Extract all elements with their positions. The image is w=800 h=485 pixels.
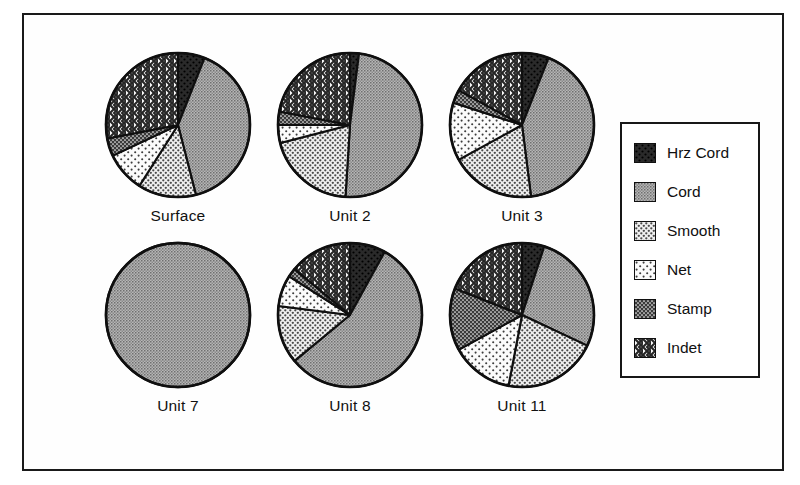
pie-slice: Indet 22% xyxy=(279,53,350,125)
swatch-cord xyxy=(634,182,656,202)
legend-item: Cord xyxy=(634,172,758,211)
legend-item: Stamp xyxy=(634,289,758,328)
pie-graphic: Hrz Cord 8%Cord 56%Smooth 13%Net 7%Stamp… xyxy=(274,239,426,391)
swatch-hrz-cord xyxy=(634,143,656,163)
pie-chart-unit-11: Hrz Cord 5%Cord 27%Smooth 21%Net 14%Stam… xyxy=(442,239,602,415)
legend-item: Net xyxy=(634,250,758,289)
legend-item-label: Cord xyxy=(667,183,701,201)
legend-item-label: Hrz Cord xyxy=(667,144,729,162)
swatch-net xyxy=(634,260,656,280)
legend-item: Indet xyxy=(634,328,758,367)
pie-slice: Indet 28% xyxy=(106,53,178,138)
swatch-indet xyxy=(634,338,656,358)
pie-caption: Unit 11 xyxy=(442,397,602,415)
legend-item-label: Stamp xyxy=(667,300,712,318)
pie-graphic: Hrz Cord 2%Cord 49%Smooth 20%Net 4%Stamp… xyxy=(274,49,426,201)
pie-graphic: Hrz Cord 5%Cord 27%Smooth 21%Net 14%Stam… xyxy=(446,239,598,391)
legend-item-label: Smooth xyxy=(667,222,720,240)
pie-graphic: Hrz Cord 6%Cord 40%Smooth 13%Net 9%Stamp… xyxy=(102,49,254,201)
pie-chart-unit-2: Hrz Cord 2%Cord 49%Smooth 20%Net 4%Stamp… xyxy=(270,49,430,225)
legend-item: Smooth xyxy=(634,211,758,250)
pie-graphic: Cord xyxy=(102,239,254,391)
figure-frame: Hrz Cord 6%Cord 40%Smooth 13%Net 9%Stamp… xyxy=(22,13,784,471)
pie-caption: Surface xyxy=(98,207,258,225)
pie-graphic: Hrz Cord 6%Cord 42%Smooth 19%Net 13%Stam… xyxy=(446,49,598,201)
swatch-smooth xyxy=(634,221,656,241)
legend-item: Hrz Cord xyxy=(634,133,758,172)
pie-chart-surface: Hrz Cord 6%Cord 40%Smooth 13%Net 9%Stamp… xyxy=(98,49,258,225)
pie-caption: Unit 3 xyxy=(442,207,602,225)
swatch-stamp xyxy=(634,299,656,319)
legend: Hrz CordCordSmoothNetStampIndet xyxy=(620,122,760,378)
legend-item-label: Indet xyxy=(667,339,701,357)
legend-item-label: Net xyxy=(667,261,691,279)
pie-chart-unit-7: CordUnit 7 xyxy=(98,239,258,415)
pie-caption: Unit 7 xyxy=(98,397,258,415)
pie-caption: Unit 2 xyxy=(270,207,430,225)
pie-chart-unit-8: Hrz Cord 8%Cord 56%Smooth 13%Net 7%Stamp… xyxy=(270,239,430,415)
pie-caption: Unit 8 xyxy=(270,397,430,415)
pie-slice: Cord 49% xyxy=(345,54,422,197)
pie-chart-unit-3: Hrz Cord 6%Cord 42%Smooth 19%Net 13%Stam… xyxy=(442,49,602,225)
